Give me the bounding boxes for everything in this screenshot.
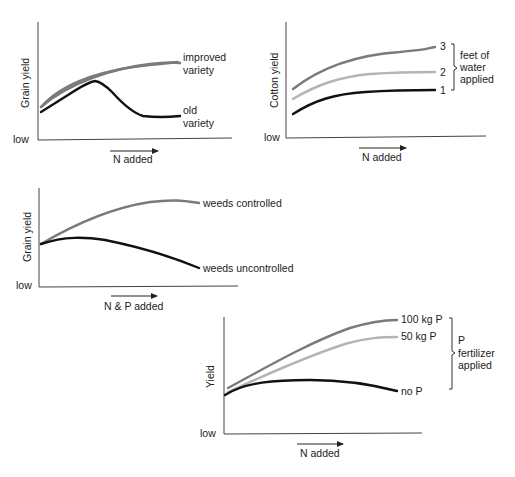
y-axis-label: Yield <box>204 365 216 388</box>
label-no-p: no P <box>401 385 423 397</box>
label-variety-2: variety <box>183 117 215 129</box>
y-axis-label: Cotton yield <box>268 52 280 108</box>
label-2: 2 <box>440 66 446 78</box>
label-100kg-p: 100 kg P <box>401 313 442 325</box>
brace-label-line-3: applied <box>460 73 494 85</box>
brace-icon <box>449 318 455 389</box>
series-weeds-uncontrolled <box>41 238 199 268</box>
y-low-label: low <box>200 427 216 439</box>
label-old: old <box>183 104 197 116</box>
series-old-variety <box>41 81 180 117</box>
y-axis-label: Grain yield <box>19 58 31 108</box>
brace-icon <box>451 44 457 90</box>
x-axis-label: N added <box>362 151 402 163</box>
chart-cotton-water: low Cotton yield N added 3 2 1 feet of w… <box>264 22 494 163</box>
series-3-feet <box>293 47 435 89</box>
axes <box>224 317 422 434</box>
label-weeds-controlled: weeds controlled <box>202 197 282 209</box>
figure-canvas: low Grain yield N added improved variety… <box>0 0 515 477</box>
label-3: 3 <box>440 40 446 52</box>
label-improved: improved <box>183 51 226 63</box>
y-low-label: low <box>264 131 280 143</box>
chart-p-fertilizer: low Yield N added 100 kg P 50 kg P no P … <box>200 313 495 459</box>
label-weeds-uncontrolled: weeds uncontrolled <box>202 262 294 274</box>
label-1: 1 <box>440 84 446 96</box>
x-axis-label: N added <box>113 153 153 165</box>
label-50kg-p: 50 kg P <box>401 330 437 342</box>
brace-label-line-3: applied <box>458 359 492 371</box>
chart-weeds: low Grain yield N & P added weeds contro… <box>16 188 294 312</box>
brace-label-line-1: P <box>458 334 465 346</box>
x-axis-label: N added <box>300 447 340 459</box>
series-improved-variety-line <box>41 62 180 107</box>
y-low-label: low <box>13 133 29 145</box>
y-low-label: low <box>16 279 32 291</box>
chart-variety: low Grain yield N added improved variety… <box>13 22 232 165</box>
series-1-foot <box>293 90 435 114</box>
brace-label-line-2: water <box>459 61 486 73</box>
brace-label-line-2: fertilizer <box>458 347 495 359</box>
axes <box>286 22 486 138</box>
brace-label-line-1: feet of <box>460 49 489 61</box>
series-100kg-p <box>228 320 397 388</box>
label-variety-1: variety <box>183 64 215 76</box>
x-axis-label: N & P added <box>104 300 164 312</box>
y-axis-label: Grain yield <box>21 212 33 262</box>
